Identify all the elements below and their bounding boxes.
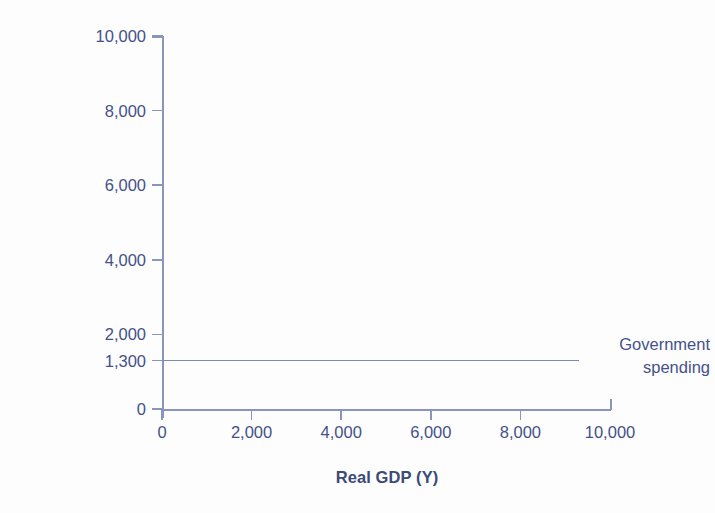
y-tick-label: 0 <box>52 401 146 418</box>
x-tick-mark <box>251 409 253 420</box>
x-axis-end-cap <box>610 399 612 410</box>
x-tick-mark <box>430 409 432 420</box>
annotation-line-2: spending <box>560 356 710 379</box>
y-tick-mark <box>152 110 163 112</box>
government-spending-line <box>162 360 579 362</box>
y-tick-label: 4,000 <box>52 252 146 269</box>
y-tick-label: 1,300 <box>52 353 146 370</box>
government-spending-annotation: Government spending <box>560 333 710 379</box>
y-tick-mark <box>152 184 163 186</box>
x-tick-mark <box>161 409 163 420</box>
annotation-line-1: Government <box>560 333 710 356</box>
x-axis-title: Real GDP (Y) <box>162 468 612 487</box>
x-axis-line <box>162 409 611 411</box>
x-tick-mark <box>520 409 522 420</box>
plot-area: 01,3002,0004,0006,0008,00010,000 02,0004… <box>0 0 715 513</box>
x-tick-label: 10,000 <box>555 424 665 441</box>
y-tick-label: 8,000 <box>52 103 146 120</box>
y-tick-mark <box>152 259 163 261</box>
x-tick-mark <box>340 409 342 420</box>
y-tick-label: 2,000 <box>52 326 146 343</box>
y-tick-mark <box>152 334 163 336</box>
y-tick-mark <box>152 35 163 37</box>
chart-figure: 01,3002,0004,0006,0008,00010,000 02,0004… <box>0 0 715 513</box>
y-tick-label: 10,000 <box>52 28 146 45</box>
y-tick-label: 6,000 <box>52 177 146 194</box>
